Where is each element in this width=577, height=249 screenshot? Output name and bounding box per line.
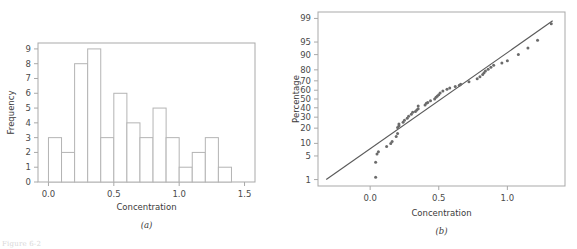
histogram-bar bbox=[48, 138, 61, 182]
histogram-panel: 01234567890.00.51.01.5ConcentrationFrequ… bbox=[0, 0, 290, 249]
x-axis-label: Concentration bbox=[116, 202, 176, 212]
y-tick-label: 99 bbox=[300, 13, 311, 23]
histogram-bar bbox=[140, 138, 153, 182]
y-tick-label: 2 bbox=[26, 147, 31, 157]
data-point bbox=[374, 161, 377, 164]
data-point bbox=[500, 62, 503, 65]
y-tick-label: 5 bbox=[26, 103, 31, 113]
y-tick-label: 9 bbox=[26, 44, 31, 54]
data-point bbox=[517, 53, 520, 56]
histogram-bar bbox=[88, 49, 101, 182]
data-point bbox=[526, 46, 529, 49]
data-point bbox=[429, 99, 432, 102]
data-point bbox=[417, 107, 420, 110]
histogram-bar bbox=[101, 138, 114, 182]
data-point bbox=[439, 91, 442, 94]
y-tick-label: 0 bbox=[26, 177, 31, 187]
panel-caption: (b) bbox=[435, 226, 447, 236]
data-point bbox=[411, 111, 414, 114]
x-tick-label: 0.0 bbox=[42, 189, 56, 199]
histogram-bar bbox=[192, 152, 205, 182]
data-point bbox=[536, 39, 539, 42]
y-tick-label: 5 bbox=[306, 151, 311, 161]
normal-reference-line bbox=[326, 21, 552, 180]
histogram-bar bbox=[127, 123, 140, 182]
figure-footnote: Figure 6-2 bbox=[2, 240, 41, 248]
data-point bbox=[417, 104, 420, 107]
x-tick-label: 1.0 bbox=[501, 193, 515, 203]
y-tick-label: 95 bbox=[300, 37, 311, 47]
data-point bbox=[374, 176, 377, 179]
histogram-bar bbox=[75, 64, 88, 182]
data-point bbox=[441, 90, 444, 93]
data-point bbox=[484, 70, 487, 73]
probability-plot-panel: 1510203040506070809095990.00.51.0Concent… bbox=[290, 0, 577, 249]
y-tick-label: 8 bbox=[26, 59, 31, 69]
data-point bbox=[391, 140, 394, 143]
data-point bbox=[395, 135, 398, 138]
y-tick-label: 1 bbox=[306, 175, 311, 185]
histogram-bar bbox=[62, 152, 75, 182]
y-tick-label: 6 bbox=[26, 88, 31, 98]
y-tick-label: 30 bbox=[300, 112, 311, 122]
data-point bbox=[476, 77, 479, 80]
data-point bbox=[492, 64, 495, 67]
x-axis-label: Concentration bbox=[411, 208, 471, 218]
data-point bbox=[385, 145, 388, 148]
y-tick-label: 90 bbox=[300, 50, 311, 60]
data-point bbox=[467, 80, 470, 83]
y-tick-label: 50 bbox=[300, 94, 311, 104]
data-point bbox=[396, 132, 399, 135]
data-point bbox=[407, 115, 410, 118]
y-tick-label: 70 bbox=[300, 76, 311, 86]
y-tick-label: 7 bbox=[26, 73, 31, 83]
data-point bbox=[403, 119, 406, 122]
histogram-svg: 01234567890.00.51.01.5ConcentrationFrequ… bbox=[0, 0, 290, 249]
data-point bbox=[377, 150, 380, 153]
data-point bbox=[397, 123, 400, 126]
x-tick-label: 1.0 bbox=[172, 189, 186, 199]
data-point bbox=[426, 101, 429, 104]
data-point bbox=[550, 22, 553, 25]
histogram-bar bbox=[114, 93, 127, 182]
histogram-bar bbox=[179, 167, 192, 182]
probability-plot-svg: 1510203040506070809095990.00.51.0Concent… bbox=[290, 0, 577, 249]
data-point bbox=[489, 66, 492, 69]
data-point bbox=[506, 59, 509, 62]
x-tick-label: 1.5 bbox=[238, 189, 252, 199]
data-point bbox=[448, 86, 451, 89]
y-axis-label: Frequency bbox=[6, 91, 16, 135]
panel-caption: (a) bbox=[141, 220, 153, 230]
y-tick-label: 10 bbox=[300, 138, 311, 148]
y-axis-label: Percentage bbox=[291, 75, 301, 123]
data-point bbox=[445, 88, 448, 91]
x-tick-label: 0.5 bbox=[432, 193, 446, 203]
data-point bbox=[454, 85, 457, 88]
y-tick-label: 20 bbox=[300, 123, 311, 133]
x-tick-label: 0.5 bbox=[107, 189, 121, 199]
y-tick-label: 40 bbox=[300, 103, 311, 113]
x-tick-label: 0.0 bbox=[363, 193, 377, 203]
data-point bbox=[459, 83, 462, 86]
y-tick-label: 1 bbox=[26, 162, 31, 172]
data-point bbox=[478, 75, 481, 78]
data-point bbox=[487, 68, 490, 71]
y-tick-label: 80 bbox=[300, 65, 311, 75]
y-tick-label: 60 bbox=[300, 85, 311, 95]
histogram-bar bbox=[218, 167, 231, 182]
y-tick-label: 4 bbox=[26, 118, 31, 128]
histogram-bar bbox=[205, 138, 218, 182]
y-tick-label: 3 bbox=[26, 133, 31, 143]
histogram-bar bbox=[166, 138, 179, 182]
histogram-bar bbox=[153, 108, 166, 182]
